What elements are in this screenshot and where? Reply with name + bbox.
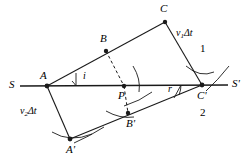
wavelet-arc-above-Bprime [124, 92, 152, 106]
v2-suffix: Δt [28, 105, 37, 116]
label-angle-refraction: r [168, 84, 172, 94]
label-angle-incidence: i [83, 71, 86, 81]
vertex-dot-Bprime [126, 111, 130, 115]
segment-A-Aprime [47, 86, 70, 139]
vertex-dot-C [163, 20, 167, 24]
label-point-C-prime: C' [197, 90, 207, 101]
label-point-A-prime: A' [66, 144, 75, 155]
vertex-dot-P [122, 84, 126, 88]
label-point-B-prime: B' [126, 118, 135, 129]
vertex-dot-A [45, 84, 50, 89]
v1-suffix: Δt [184, 27, 193, 38]
label-S: S [9, 79, 15, 90]
wavelet-arc-at-Cprime [186, 66, 214, 74]
label-v1-delta-t: v1Δt [176, 28, 193, 40]
label-region-2: 2 [200, 107, 206, 118]
vertex-dot-Cprime [200, 83, 205, 88]
diagram-canvas [0, 0, 252, 162]
refracted-wavefront-AprimeCprime [70, 85, 202, 139]
dashed-ray-B-P [106, 51, 124, 86]
vertex-dot-Aprime [68, 137, 73, 142]
refraction-diagram: S S' A B C P C' B' A' i r v1Δt v2Δt 1 2 [0, 0, 252, 162]
label-point-B: B [100, 33, 107, 44]
label-point-P: P [118, 90, 125, 101]
label-S-prime: S' [232, 78, 240, 89]
wavelet-arc-right-of-Cprime [206, 66, 229, 91]
label-point-C: C [160, 3, 167, 14]
label-region-1: 1 [200, 43, 206, 54]
vertex-dot-B [104, 49, 108, 53]
label-point-A: A [40, 70, 47, 81]
wavelet-arc-above-P [133, 66, 139, 92]
label-v2-delta-t: v2Δt [20, 106, 37, 118]
